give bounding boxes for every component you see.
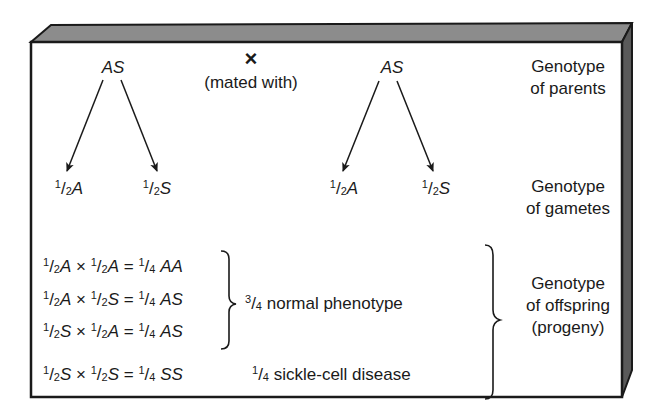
gamete-right-A: 1/2A xyxy=(330,179,358,199)
label-line: (progeny) xyxy=(526,317,610,339)
offspring-row: 1/2S × 1/2S = 1/4 SS xyxy=(43,365,183,385)
label-line: of parents xyxy=(530,78,606,100)
label-line: of offspring xyxy=(526,295,610,317)
label-genotype-parents: Genotype of parents xyxy=(530,56,606,100)
box-side-bevel xyxy=(622,23,632,397)
gamete-left-S: 1/2S xyxy=(143,179,171,199)
label-line: Genotype xyxy=(530,56,606,78)
gamete-right-S: 1/2S xyxy=(422,179,450,199)
sickle-cell-disease-result: 1/4 sickle-cell disease xyxy=(252,365,411,385)
label-line: of gametes xyxy=(526,198,610,220)
label-line: Genotype xyxy=(526,273,610,295)
normal-phenotype-result: 3/4 normal phenotype xyxy=(245,294,403,314)
label-genotype-gametes: Genotype of gametes xyxy=(526,176,610,220)
offspring-row: 1/2A × 1/2S = 1/4 AS xyxy=(43,290,183,310)
offspring-row: 1/2A × 1/2A = 1/4 AA xyxy=(43,257,183,277)
left-parent-genotype: AS xyxy=(102,58,125,78)
offspring-row: 1/2S × 1/2A = 1/4 AS xyxy=(43,322,183,342)
right-parent-genotype: AS xyxy=(381,58,404,78)
cross-symbol: × xyxy=(245,49,258,69)
box-top-bevel xyxy=(31,23,632,42)
mated-with-caption: (mated with) xyxy=(204,73,298,93)
label-genotype-offspring: Genotype of offspring (progeny) xyxy=(526,273,610,339)
gamete-left-A: 1/2A xyxy=(55,179,83,199)
label-line: Genotype xyxy=(526,176,610,198)
